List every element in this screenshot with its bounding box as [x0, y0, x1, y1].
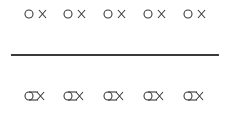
cross-icon	[156, 92, 163, 100]
circle-icon	[144, 92, 152, 100]
circle-cross-pair-5	[183, 7, 213, 21]
circle-cross-pair-1	[24, 7, 54, 21]
circle-cross-pair-4	[143, 7, 173, 21]
cross-icon	[158, 10, 165, 18]
joined-circle-cross-2	[63, 89, 93, 103]
circle-icon	[64, 10, 72, 18]
joined-circle-cross-4	[143, 89, 173, 103]
circle-cross-pair-2	[63, 7, 93, 21]
top-row-separate-pairs	[0, 7, 232, 21]
circle-icon	[64, 92, 72, 100]
cross-icon	[116, 92, 123, 100]
circle-icon	[104, 92, 112, 100]
cross-icon	[37, 92, 44, 100]
circle-icon	[144, 10, 152, 18]
cross-icon	[118, 10, 125, 18]
cross-icon	[198, 10, 205, 18]
joined-circle-cross-5	[183, 89, 213, 103]
circle-icon	[184, 10, 192, 18]
cross-icon	[76, 92, 83, 100]
circle-icon	[104, 10, 112, 18]
cross-icon	[78, 10, 85, 18]
joined-circle-cross-3	[103, 89, 133, 103]
horizontal-divider	[11, 54, 219, 56]
cross-icon	[196, 92, 203, 100]
joined-circle-cross-1	[24, 89, 54, 103]
bottom-row-joined-pairs	[0, 89, 232, 103]
circle-icon	[184, 92, 192, 100]
circle-cross-pair-3	[103, 7, 133, 21]
circle-icon	[25, 92, 33, 100]
cross-icon	[39, 10, 46, 18]
circle-icon	[25, 10, 33, 18]
